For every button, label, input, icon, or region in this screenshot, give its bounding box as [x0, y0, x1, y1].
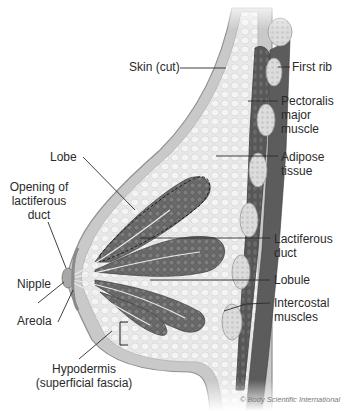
label-lactiferous-line1: Lactiferous — [274, 232, 333, 246]
label-intercostal-line1: Intercostal — [274, 296, 329, 310]
label-pectoralis: Pectoralis major muscle — [281, 94, 334, 136]
label-hypodermis-line2: (superficial fascia) — [28, 376, 140, 390]
label-opening-line3: duct — [2, 208, 76, 222]
label-intercostal-muscles: Intercostal muscles — [274, 296, 329, 324]
copyright-credit: © Body Scientific International — [240, 395, 340, 404]
label-skin-cut: Skin (cut) — [129, 60, 180, 74]
rib — [222, 304, 242, 340]
label-areola: Areola — [17, 314, 52, 328]
label-lactiferous-duct: Lactiferous duct — [274, 232, 333, 260]
rib — [240, 203, 258, 237]
rib — [266, 58, 282, 86]
label-hypodermis-line1: Hypodermis — [28, 362, 140, 376]
label-lactiferous-line2: duct — [274, 246, 333, 260]
label-hypodermis: Hypodermis (superficial fascia) — [28, 362, 140, 390]
label-first-rib: First rib — [292, 60, 332, 74]
label-nipple: Nipple — [17, 277, 51, 291]
label-opening-line1: Opening of — [2, 180, 76, 194]
rib — [249, 153, 267, 187]
label-pectoralis-line1: Pectoralis — [281, 94, 334, 108]
label-lobule: Lobule — [274, 273, 310, 287]
label-adipose-line1: Adipose — [281, 150, 324, 164]
label-adipose-line2: tissue — [281, 164, 324, 178]
label-adipose-tissue: Adipose tissue — [281, 150, 324, 178]
label-pectoralis-line2: major — [281, 108, 334, 122]
label-intercostal-line2: muscles — [274, 310, 329, 324]
label-lobe: Lobe — [50, 150, 77, 164]
label-pectoralis-line3: muscle — [281, 122, 334, 136]
rib — [232, 255, 250, 289]
rib — [257, 104, 275, 136]
label-opening-of-lactiferous-duct: Opening of lactiferous duct — [2, 180, 76, 222]
label-opening-line2: lactiferous — [2, 194, 76, 208]
